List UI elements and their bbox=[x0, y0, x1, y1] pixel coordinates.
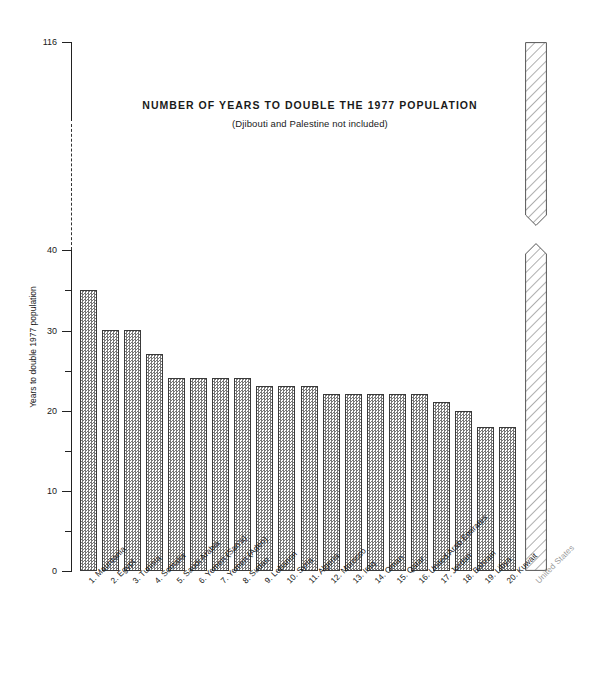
y-tick-30 bbox=[62, 331, 72, 332]
bar bbox=[168, 378, 185, 571]
chart-title: NUMBER OF YEARS TO DOUBLE THE 1977 POPUL… bbox=[60, 99, 560, 111]
bar-us-upper bbox=[525, 42, 547, 226]
y-tick-label-40: 40 bbox=[17, 246, 57, 255]
y-tick-label-20: 20 bbox=[17, 407, 57, 416]
y-tick-5 bbox=[65, 531, 72, 532]
y-tick-15 bbox=[65, 451, 72, 452]
y-tick-10 bbox=[62, 491, 72, 492]
bar bbox=[389, 394, 406, 571]
y-axis-line-upper bbox=[71, 42, 72, 121]
y-tick-40 bbox=[62, 250, 72, 251]
bar bbox=[278, 386, 295, 571]
y-tick-label-30: 30 bbox=[17, 327, 57, 336]
bar bbox=[102, 330, 119, 571]
y-tick-116 bbox=[62, 42, 72, 43]
y-tick-label-10: 10 bbox=[17, 487, 57, 496]
bar bbox=[323, 394, 340, 571]
bar bbox=[190, 378, 207, 571]
bar-us-lower bbox=[525, 243, 547, 571]
y-axis-break-dashed bbox=[71, 124, 72, 250]
bar bbox=[80, 290, 97, 571]
y-tick-20 bbox=[62, 411, 72, 412]
y-axis-title: Years to double 1977 population bbox=[28, 267, 38, 427]
bar bbox=[499, 427, 516, 571]
bar bbox=[146, 354, 163, 571]
bar bbox=[124, 330, 141, 571]
bar bbox=[411, 394, 428, 571]
bar bbox=[345, 394, 362, 571]
y-tick-25 bbox=[65, 371, 72, 372]
y-tick-label-0: 0 bbox=[17, 567, 57, 576]
bar-chart: NUMBER OF YEARS TO DOUBLE THE 1977 POPUL… bbox=[0, 0, 603, 689]
bar bbox=[433, 402, 450, 571]
y-tick-label-116: 116 bbox=[17, 38, 57, 47]
bar bbox=[301, 386, 318, 571]
chart-subtitle: (Djibouti and Palestine not included) bbox=[60, 118, 560, 129]
bar bbox=[367, 394, 384, 571]
y-tick-0 bbox=[62, 571, 72, 572]
y-tick-35 bbox=[65, 290, 72, 291]
